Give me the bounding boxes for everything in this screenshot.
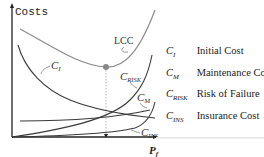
legend: CI Initial Cost CM Maintenance Cost CRIS… — [166, 44, 264, 130]
ci-label: CI — [51, 59, 61, 73]
legend-label: Initial Cost — [197, 45, 244, 56]
cins-leader — [131, 130, 140, 133]
legend-item-insurance-cost: CINS Insurance Cost — [166, 109, 264, 131]
x-axis-label: Pf — [149, 144, 159, 157]
y-axis-label: Costs — [15, 6, 48, 18]
legend-label: Insurance Cost — [197, 110, 260, 121]
legend-item-initial-cost: CI Initial Cost — [166, 44, 264, 66]
ci-leader — [41, 66, 50, 74]
divider — [156, 137, 264, 139]
y-axis-arrow-icon — [10, 3, 14, 8]
optimum-point — [103, 64, 109, 70]
crisk-label: CRISK — [120, 70, 142, 83]
lcc-label: LCC — [114, 35, 134, 46]
lcc-curve — [20, 10, 155, 67]
legend-item-maintenance-cost: CM Maintenance Cost — [166, 66, 264, 88]
legend-item-risk-of-failure: CRISK Risk of Failure — [166, 87, 264, 109]
lcc-leader — [122, 47, 128, 52]
crisk-curve — [12, 55, 152, 137]
cm-label: CM — [137, 91, 151, 105]
legend-label: Risk of Failure — [197, 88, 260, 99]
legend-label: Maintenance Cost — [197, 67, 264, 78]
